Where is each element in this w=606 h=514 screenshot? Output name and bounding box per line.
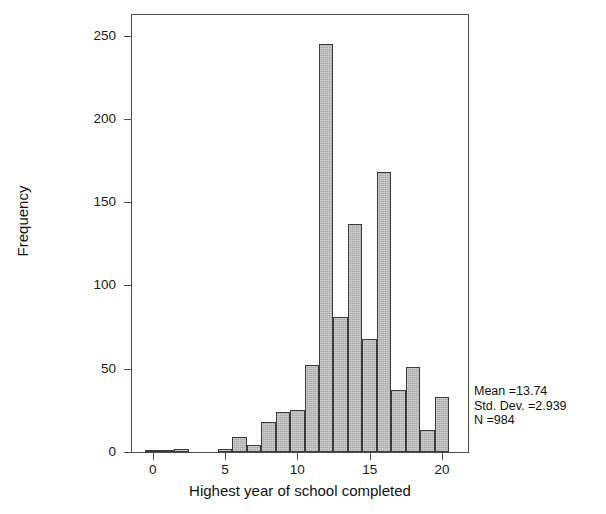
plot-frame-right [468, 14, 469, 453]
x-axis-tick [297, 452, 298, 460]
x-axis-tick-label: 0 [133, 462, 173, 478]
y-axis-tick-label: 50 [68, 362, 116, 376]
histogram-bar [333, 317, 347, 452]
y-axis-tick-label: 200 [68, 112, 116, 126]
mean-label: Mean =13.74 [474, 384, 602, 399]
histogram-bar [362, 339, 376, 452]
y-axis-tick [124, 369, 132, 370]
x-axis-tick-label: 5 [205, 462, 245, 478]
histogram-bar [247, 445, 261, 452]
y-axis-tick [124, 452, 132, 453]
std-dev-label: Std. Dev. =2.939 [474, 399, 602, 414]
histogram-bar [276, 412, 290, 452]
y-axis-tick-label: 0 [68, 445, 116, 459]
x-axis-line [131, 452, 469, 453]
histogram-bar [305, 365, 319, 452]
plot-frame-top [131, 14, 469, 15]
histogram-bar [290, 410, 304, 452]
y-axis-tick-label: 250 [68, 29, 116, 43]
histogram-chart: 050100150200250 05101520 Highest year of… [0, 0, 606, 514]
histogram-bar [377, 172, 391, 452]
histogram-bar [435, 397, 449, 452]
y-axis-tick [124, 202, 132, 203]
x-axis-tick-label: 10 [277, 462, 317, 478]
x-axis-tick-label: 15 [350, 462, 390, 478]
histogram-bar [261, 422, 275, 452]
y-axis-tick-label: 100 [68, 278, 116, 292]
y-axis-line [131, 14, 132, 453]
x-axis-tick [153, 452, 154, 460]
histogram-bar [406, 367, 420, 452]
histogram-bar [348, 224, 362, 452]
histogram-bar [174, 449, 188, 452]
x-axis-tick [370, 452, 371, 460]
histogram-bar [160, 450, 174, 452]
histogram-bar [232, 437, 246, 452]
x-axis-tick [225, 452, 226, 460]
y-axis-title: Frequency [14, 151, 32, 291]
y-axis-tick [124, 119, 132, 120]
histogram-bar [420, 430, 434, 452]
n-label: N =984 [474, 413, 602, 428]
histogram-bar [319, 44, 333, 452]
y-axis-tick [124, 285, 132, 286]
x-axis-tick [442, 452, 443, 460]
y-axis-tick-label: 150 [68, 195, 116, 209]
statistics-annotation: Mean =13.74 Std. Dev. =2.939 N =984 [474, 384, 602, 428]
histogram-bar [391, 390, 405, 452]
x-axis-tick-label: 20 [422, 462, 462, 478]
x-axis-title: Highest year of school completed [131, 482, 469, 500]
y-axis-tick [124, 36, 132, 37]
